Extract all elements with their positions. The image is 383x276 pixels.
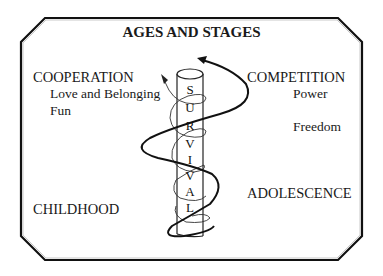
competition-heading: COMPETITION xyxy=(247,69,345,86)
pillar-letter-s: S xyxy=(183,82,197,98)
need-love-and-belonging: Love and Belonging xyxy=(50,86,160,102)
pillar-letter-a: A xyxy=(183,184,197,200)
pillar-letter-r: R xyxy=(183,118,197,134)
pillar-letter-i: I xyxy=(183,152,197,168)
need-fun: Fun xyxy=(50,103,71,119)
stage-adolescence: ADOLESCENCE xyxy=(247,185,352,202)
pillar-letter-l: L xyxy=(183,200,197,216)
pillar-letter-v: V xyxy=(183,136,197,152)
cooperation-heading: COOPERATION xyxy=(33,69,134,86)
need-power: Power xyxy=(293,86,328,102)
stage-childhood: CHILDHOOD xyxy=(33,201,119,218)
diagram-title: AGES AND STAGES xyxy=(0,24,383,41)
pillar-letter-u: U xyxy=(183,100,197,116)
pillar-letter-v2: V xyxy=(183,168,197,184)
need-freedom: Freedom xyxy=(293,119,341,135)
